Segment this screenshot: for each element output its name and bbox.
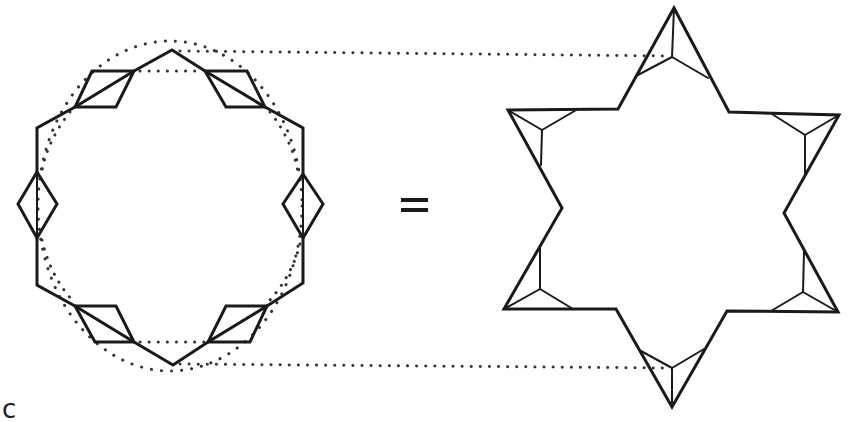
rhombus-unit-lower-left [75, 306, 134, 342]
triangle-unit-lower-right [771, 252, 838, 312]
ring-outline-bottom [75, 306, 267, 365]
triangle-unit-lower-left [504, 247, 573, 309]
triangle-unit-top [636, 8, 708, 78]
dotted-connector-top [180, 51, 668, 56]
equals-sign [401, 200, 428, 210]
triangle-unit-upper-right [772, 114, 839, 175]
ring-outline-lower-right [267, 238, 303, 306]
panel-label: c [2, 396, 16, 422]
dotted-inner-circle [38, 41, 302, 371]
triangle-unit-upper-left [508, 109, 578, 165]
right-star-shape [504, 8, 839, 407]
rhombus-unit-right [283, 174, 323, 238]
dotted-connector-bottom [180, 364, 668, 368]
rhombus-unit-left [18, 172, 57, 238]
ring-outline-upper-left [37, 107, 75, 172]
left-ring-shape [18, 41, 323, 371]
dotted-arc-right-lower [270, 244, 300, 300]
ring-outline-top [75, 50, 265, 107]
rhombus-unit-upper-left [75, 71, 134, 107]
ring-outline-upper-right [265, 107, 303, 174]
triangle-unit-bottom [641, 349, 704, 407]
rhombus-unit-upper-right [205, 71, 265, 107]
star-outline [504, 8, 839, 407]
rhombus-unit-lower-right [208, 306, 267, 342]
